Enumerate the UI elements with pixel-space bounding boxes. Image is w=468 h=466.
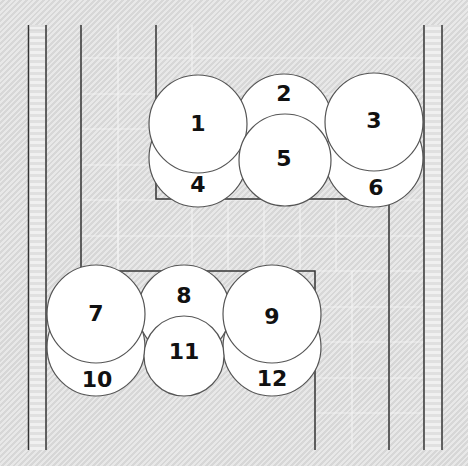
circle-label-6: 6 — [368, 175, 383, 200]
circle-label-11: 11 — [169, 339, 200, 364]
seating-diagram: 123456 789101112 — [0, 0, 468, 466]
upper-circle-group: 123456 — [149, 73, 423, 207]
circle-label-1: 1 — [190, 111, 205, 136]
lower-circle-group: 789101112 — [47, 265, 321, 396]
circle-label-2: 2 — [276, 81, 291, 106]
circle-label-3: 3 — [366, 108, 381, 133]
circle-label-5: 5 — [276, 146, 291, 171]
circle-label-4: 4 — [190, 172, 205, 197]
circle-label-8: 8 — [176, 283, 191, 308]
circle-label-10: 10 — [82, 367, 113, 392]
diagram-canvas: 123456 789101112 — [0, 0, 468, 466]
circle-label-7: 7 — [88, 301, 103, 326]
circle-label-12: 12 — [257, 366, 288, 391]
circle-label-9: 9 — [264, 304, 279, 329]
